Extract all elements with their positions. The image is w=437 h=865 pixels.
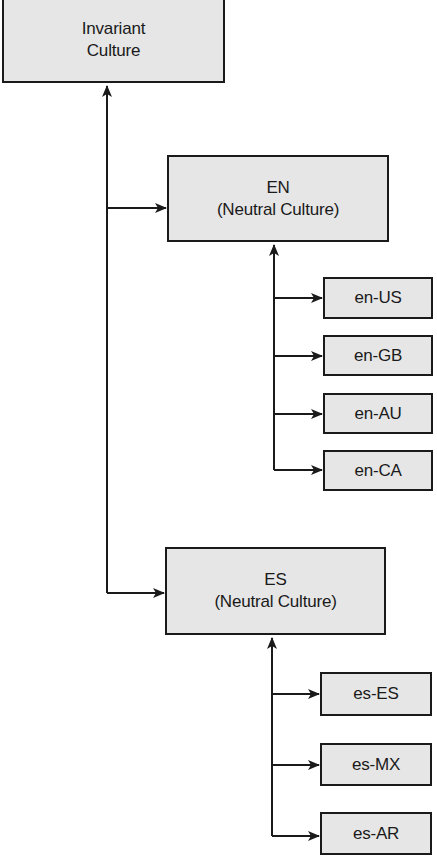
- node-label: Culture: [87, 40, 140, 62]
- es-mx-node: es-MX: [320, 743, 432, 786]
- en-ca-node: en-CA: [323, 450, 433, 491]
- node-label: es-ES: [353, 683, 398, 705]
- node-label: es-AR: [353, 823, 399, 845]
- node-label: en-CA: [354, 460, 401, 482]
- en-au-node: en-AU: [323, 393, 433, 434]
- en-us-node: en-US: [323, 277, 433, 319]
- node-code: ES: [264, 569, 286, 591]
- es-ar-node: es-AR: [320, 812, 432, 855]
- node-label: (Neutral Culture): [214, 591, 336, 613]
- en-neutral-culture-node: EN (Neutral Culture): [167, 155, 389, 242]
- node-label: en-US: [354, 287, 401, 309]
- node-label: (Neutral Culture): [217, 199, 339, 221]
- es-es-node: es-ES: [320, 672, 432, 716]
- en-gb-node: en-GB: [323, 335, 433, 376]
- node-code: EN: [266, 177, 289, 199]
- node-label: en-GB: [354, 345, 402, 367]
- node-label: Invariant: [82, 18, 145, 40]
- node-label: en-AU: [354, 403, 401, 425]
- invariant-culture-node: Invariant Culture: [2, 0, 225, 83]
- node-label: es-MX: [352, 754, 400, 776]
- es-neutral-culture-node: ES (Neutral Culture): [165, 547, 386, 635]
